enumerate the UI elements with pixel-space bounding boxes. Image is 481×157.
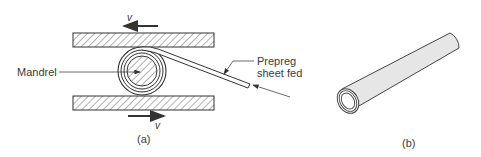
prepreg-label-line2: sheet fed xyxy=(257,67,302,79)
caption-b: (b) xyxy=(402,137,415,149)
rolled-tube xyxy=(333,33,459,117)
prepreg-leader-diag xyxy=(224,61,233,74)
mandrel xyxy=(127,56,157,86)
velocity-bottom-label: v xyxy=(155,120,160,131)
prepreg-label-line1: Prepreg xyxy=(257,55,296,67)
feed-arrow xyxy=(253,85,290,97)
diagram-canvas: v v Mandrel Prepreg sheet fed (a) (b) xyxy=(0,0,481,157)
bottom-plate xyxy=(73,96,214,110)
top-plate xyxy=(73,33,214,47)
caption-a: (a) xyxy=(137,133,150,145)
diagram-graphics xyxy=(0,0,481,157)
mandrel-label: Mandrel xyxy=(17,66,57,78)
velocity-top-label: v xyxy=(127,12,132,23)
